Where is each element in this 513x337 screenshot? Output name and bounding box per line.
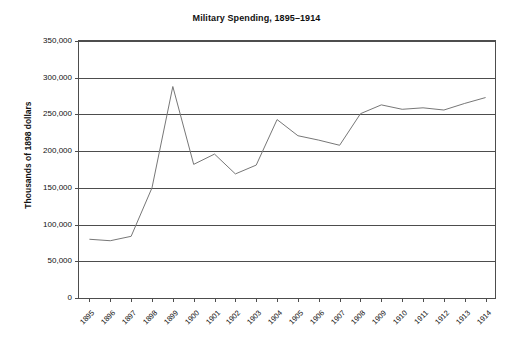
plot-frame	[79, 41, 496, 299]
chart-figure: Military Spending, 1895–1914 Thousands o…	[0, 0, 513, 337]
gridlines	[79, 42, 496, 262]
data-series-line	[89, 87, 485, 241]
plot-area	[0, 0, 513, 337]
